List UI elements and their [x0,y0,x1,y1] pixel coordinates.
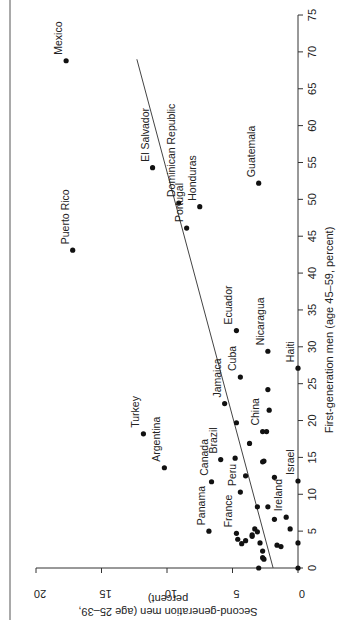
x-tick-label: 30 [306,341,318,353]
y-tick-label: 15 [99,588,111,600]
data-point [256,181,261,186]
x-tick-label: 40 [306,267,318,279]
point-label: Guatemala [245,126,257,178]
point-label: Argentina [150,417,162,462]
chart-canvas: 05101520051015202530354045505560657075 M… [0,0,349,641]
data-point [260,429,265,434]
data-point [243,473,248,478]
point-label: Ireland [272,479,284,511]
y-tick-label: 5 [233,588,239,600]
point-label: Puerto Rico [59,189,71,244]
data-point [222,401,227,406]
point-label: El Salvador [139,107,151,161]
data-point [295,478,300,483]
data-point [284,515,289,520]
x-tick-label: 0 [306,565,318,571]
data-point [235,537,240,542]
data-point [233,456,238,461]
data-point [247,441,252,446]
x-tick-label: 55 [306,156,318,168]
point-label: Canada [198,439,210,476]
data-point [70,248,75,253]
x-tick-label: 75 [306,9,318,21]
data-point [295,540,300,545]
data-point [234,328,239,333]
data-point [238,374,243,379]
point-label: Haiti [284,341,296,362]
x-tick-label: 35 [306,304,318,316]
data-point [295,565,300,570]
data-point [239,541,244,546]
data-point [265,387,270,392]
data-point [238,489,243,494]
y-tick-label: 20 [34,588,46,600]
point-label: Cuba [226,346,238,371]
data-point [206,529,211,534]
data-point [278,544,283,549]
data-point [255,529,260,534]
x-tick-label: 65 [306,83,318,95]
data-point [209,479,214,484]
scatter-chart: 05101520051015202530354045505560657075 M… [0,0,349,641]
x-tick-label: 10 [306,488,318,500]
x-tick-label: 25 [306,378,318,390]
data-point [256,565,261,570]
point-label: Panama [195,486,207,525]
data-point [184,226,189,231]
data-point [272,517,277,522]
data-point [260,548,265,553]
data-point [255,504,260,509]
data-point [288,526,293,531]
point-label: France [222,495,234,528]
data-point [261,557,266,562]
x-axis-label: First-generation men (age 45–59, percent… [323,227,335,434]
point-label: Honduras [186,155,198,201]
data-point [250,534,255,539]
x-tick-label: 50 [306,193,318,205]
point-label: Mexico [52,21,64,54]
point-label: Turkey [129,395,141,427]
data-point [234,420,239,425]
data-point [295,366,300,371]
data-point [141,431,146,436]
x-tick-label: 15 [306,451,318,463]
data-point [257,540,262,545]
point-labels: MexicoPuerto RicoEl SalvadorDominican Re… [52,21,296,527]
data-point [265,504,270,509]
point-label: Nicaragua [254,297,266,345]
data-point [197,204,202,209]
x-tick-label: 5 [306,528,318,534]
data-point [234,531,239,536]
point-label: Israel [284,449,296,475]
data-point [64,58,69,63]
data-point [150,165,155,170]
point-label: Portugal [173,183,185,222]
x-tick-label: 60 [306,119,318,131]
data-point [218,457,223,462]
data-point [267,408,272,413]
data-point [265,349,270,354]
x-tick-label: 70 [306,46,318,58]
y-tick-label: 0 [299,588,305,600]
point-label: Ecuador [222,285,234,325]
point-label: Jamaica [211,358,223,397]
y-axis-label-line1: Second-generation men (age 25–39, [78,606,257,618]
point-label: China [249,398,261,426]
data-point [260,459,265,464]
x-tick-label: 45 [306,230,318,242]
data-point [162,465,167,470]
x-tick-label: 20 [306,414,318,426]
y-axis-label-line2: percent) [148,593,188,605]
point-label: Peru [226,464,238,486]
